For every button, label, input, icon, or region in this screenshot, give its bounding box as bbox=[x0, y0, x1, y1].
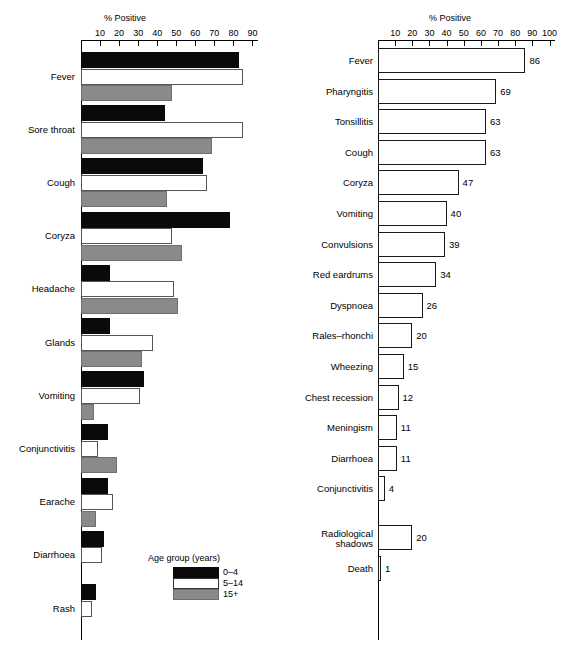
right-tick-mark bbox=[532, 41, 533, 46]
legend-title: Age group (years) bbox=[148, 553, 220, 563]
left-bar bbox=[81, 601, 92, 617]
right-category-label: Rales–rhonchi bbox=[300, 331, 373, 341]
right-bar bbox=[378, 525, 412, 550]
right-tick-mark bbox=[550, 41, 551, 46]
right-bar bbox=[378, 79, 496, 104]
left-category-label: Earache bbox=[0, 497, 75, 507]
right-value-label: 4 bbox=[389, 484, 394, 494]
left-bar bbox=[81, 511, 96, 527]
left-tick-mark bbox=[100, 41, 101, 46]
left-bar bbox=[81, 584, 96, 600]
left-tick-label: 90 bbox=[240, 28, 264, 38]
left-bar bbox=[81, 122, 243, 138]
left-bar bbox=[81, 281, 174, 297]
left-category-label: Diarrhoea bbox=[0, 550, 75, 560]
right-value-label: 47 bbox=[463, 178, 474, 188]
right-tick-mark bbox=[498, 41, 499, 46]
left-bar bbox=[81, 245, 182, 261]
right-category-label: Radiological shadows bbox=[300, 529, 373, 549]
left-axis-top-rule bbox=[81, 40, 258, 41]
left-category-label: Sore throat bbox=[0, 125, 75, 135]
right-category-label: Pharyngitis bbox=[300, 87, 373, 97]
right-axis-top-rule bbox=[378, 40, 555, 41]
right-bar bbox=[378, 476, 385, 501]
right-category-label: Wheezing bbox=[300, 362, 373, 372]
right-category-label: Coryza bbox=[300, 178, 373, 188]
right-bar bbox=[378, 293, 423, 318]
right-chart-panel: % Positive 102030405060708090100 FeverPh… bbox=[300, 0, 578, 669]
left-tick-mark bbox=[195, 41, 196, 46]
left-bar bbox=[81, 191, 167, 207]
right-bar bbox=[378, 354, 404, 379]
right-value-label: 39 bbox=[449, 240, 460, 250]
right-value-label: 86 bbox=[529, 56, 540, 66]
right-category-label: Red eardrums bbox=[300, 270, 373, 280]
right-value-label: 1 bbox=[385, 564, 390, 574]
right-value-label: 69 bbox=[500, 87, 511, 97]
right-category-label: Cough bbox=[300, 148, 373, 158]
right-category-label: Diarrhoea bbox=[300, 454, 373, 464]
right-bar bbox=[378, 170, 459, 195]
left-bar bbox=[81, 52, 239, 68]
left-category-label: Fever bbox=[0, 72, 75, 82]
left-bar bbox=[81, 457, 117, 473]
legend-label: 5–14 bbox=[223, 578, 243, 589]
right-value-label: 26 bbox=[427, 301, 438, 311]
right-bar bbox=[378, 385, 399, 410]
right-tick-mark bbox=[464, 41, 465, 46]
right-category-label: Convulsions bbox=[300, 240, 373, 250]
left-bar bbox=[81, 335, 153, 351]
left-bar bbox=[81, 441, 98, 457]
left-bar bbox=[81, 494, 113, 510]
left-category-label: Glands bbox=[0, 338, 75, 348]
left-bar bbox=[81, 318, 110, 334]
left-bar bbox=[81, 351, 142, 367]
right-category-label: Meningism bbox=[300, 423, 373, 433]
left-category-label: Rash bbox=[0, 604, 75, 614]
left-category-label: Vomiting bbox=[0, 391, 75, 401]
left-axis-title: % Positive bbox=[85, 13, 165, 23]
right-value-label: 11 bbox=[401, 423, 411, 433]
right-bar bbox=[378, 201, 447, 226]
left-bar bbox=[81, 69, 243, 85]
left-tick-mark bbox=[252, 41, 253, 46]
right-bar bbox=[378, 262, 436, 287]
right-bar bbox=[378, 446, 397, 471]
right-tick-mark bbox=[515, 41, 516, 46]
right-value-label: 15 bbox=[408, 362, 419, 372]
right-category-label: Conjunctivitis bbox=[300, 484, 373, 494]
right-value-label: 20 bbox=[416, 331, 427, 341]
figure-two-bar-charts: % Positive 102030405060708090 FeverSore … bbox=[0, 0, 578, 669]
left-bar bbox=[81, 388, 140, 404]
right-category-label: Dyspnoea bbox=[300, 301, 373, 311]
left-tick-mark bbox=[214, 41, 215, 46]
left-category-label: Conjunctivitis bbox=[0, 444, 75, 454]
right-value-label: 63 bbox=[490, 148, 501, 158]
left-bar bbox=[81, 175, 207, 191]
right-tick-mark bbox=[481, 41, 482, 46]
left-bar bbox=[81, 371, 144, 387]
left-bar bbox=[81, 478, 108, 494]
left-bar bbox=[81, 158, 203, 174]
left-tick-mark bbox=[176, 41, 177, 46]
left-bar bbox=[81, 138, 212, 154]
right-tick-label: 100 bbox=[538, 28, 562, 38]
legend-swatch-age-5-14 bbox=[173, 578, 219, 589]
right-category-label: Vomiting bbox=[300, 209, 373, 219]
legend-label: 15+ bbox=[223, 589, 238, 600]
legend-swatch-age-0-4 bbox=[173, 567, 219, 578]
left-tick-mark bbox=[233, 41, 234, 46]
left-bar bbox=[81, 265, 110, 281]
left-bar bbox=[81, 85, 172, 101]
right-tick-mark bbox=[447, 41, 448, 46]
right-bar bbox=[378, 415, 397, 440]
right-value-label: 34 bbox=[440, 270, 451, 280]
left-category-label: Headache bbox=[0, 284, 75, 294]
right-bar bbox=[378, 556, 381, 581]
right-bar bbox=[378, 48, 525, 73]
left-chart-panel: % Positive 102030405060708090 FeverSore … bbox=[0, 0, 300, 669]
right-tick-mark bbox=[395, 41, 396, 46]
right-bar bbox=[378, 232, 445, 257]
right-tick-mark bbox=[412, 41, 413, 46]
left-bar bbox=[81, 547, 102, 563]
